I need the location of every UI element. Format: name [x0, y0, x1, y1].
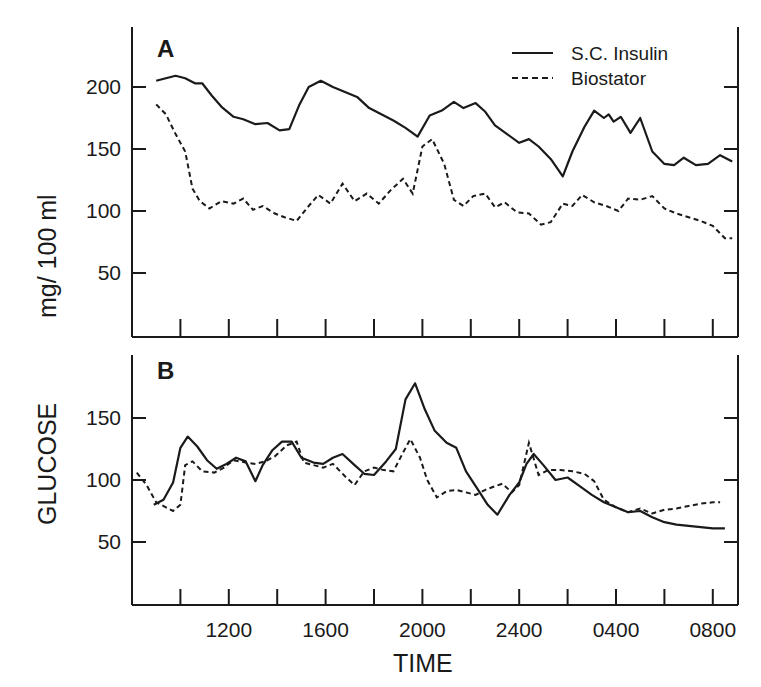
legend-label-sc-insulin: S.C. Insulin [571, 43, 668, 64]
x-axis-title: TIME [393, 649, 453, 677]
y-tick-label: 200 [86, 75, 121, 98]
legend: S.C. Insulin Biostator [512, 43, 668, 89]
y-axis-title-units: mg/ 100 ml [33, 194, 61, 318]
x-tick-label: 1200 [205, 618, 252, 641]
panel-a-sc-insulin-line [156, 76, 732, 177]
y-tick-label: 100 [86, 468, 121, 491]
x-tick-label: 2000 [399, 618, 446, 641]
x-tick-label: 1600 [302, 618, 349, 641]
y-tick-label: 150 [86, 137, 121, 160]
panel-b-label: B [157, 357, 174, 384]
panel-b-biostator-line [137, 439, 720, 513]
y-tick-label: 50 [98, 261, 121, 284]
y-tick-label: 150 [86, 406, 121, 429]
legend-label-biostator: Biostator [571, 68, 647, 89]
panel-b-ticks: 50100150 [86, 406, 738, 605]
y-axis-title-glucose: GLUCOSE [33, 403, 61, 525]
panel-b-sc-insulin-line [154, 383, 725, 528]
panel-a-biostator-line [156, 104, 732, 238]
x-tick-label: 0400 [593, 618, 640, 641]
panel-a: 50100150200 A S.C. Insulin Biostator [86, 27, 738, 337]
glucose-time-chart: 50100150200 A S.C. Insulin Biostator 501… [0, 0, 761, 687]
panel-a-ticks: 50100150200 [86, 75, 738, 337]
x-tick-labels: 120016002000240004000800 [205, 618, 736, 641]
y-tick-label: 100 [86, 199, 121, 222]
y-tick-label: 50 [98, 530, 121, 553]
x-tick-label: 2400 [496, 618, 543, 641]
x-tick-label: 0800 [689, 618, 736, 641]
panel-b: 50100150 B [86, 355, 738, 605]
panel-a-label: A [157, 35, 174, 62]
